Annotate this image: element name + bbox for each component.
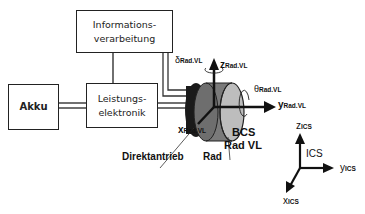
z-rad-label: zRad.VL bbox=[220, 59, 247, 70]
x-ics-label: xICS bbox=[283, 195, 299, 206]
direktantrieb-label: Direktantrieb bbox=[122, 151, 184, 162]
y-ics-label: yICS bbox=[340, 162, 356, 173]
z-ics-label: zICS bbox=[296, 120, 312, 131]
theta-rad-label: θRad.VL bbox=[254, 84, 281, 94]
info-line2: verarbeitung bbox=[94, 32, 155, 46]
informationsverarbeitung-block: Informations- verarbeitung bbox=[76, 10, 173, 53]
rad-vl-label: Rad VL bbox=[224, 139, 262, 151]
rad-label: Rad bbox=[203, 151, 222, 162]
akku-block: Akku bbox=[8, 84, 59, 130]
leistung-line2: elektronik bbox=[98, 106, 145, 120]
delta-rad-label: δRad.VL bbox=[175, 55, 202, 65]
info-line1: Informations- bbox=[93, 18, 156, 32]
leistungselektronik-block: Leistungs- elektronik bbox=[86, 83, 158, 128]
leistung-line1: Leistungs- bbox=[98, 92, 147, 106]
ics-axes bbox=[286, 133, 334, 193]
bcs-label: BCS bbox=[232, 126, 255, 138]
y-rad-label: yRad.VL bbox=[278, 99, 306, 110]
x-rad-label: xRad.VL bbox=[178, 124, 206, 135]
ics-label: ICS bbox=[306, 148, 323, 159]
akku-label: Akku bbox=[19, 100, 47, 114]
